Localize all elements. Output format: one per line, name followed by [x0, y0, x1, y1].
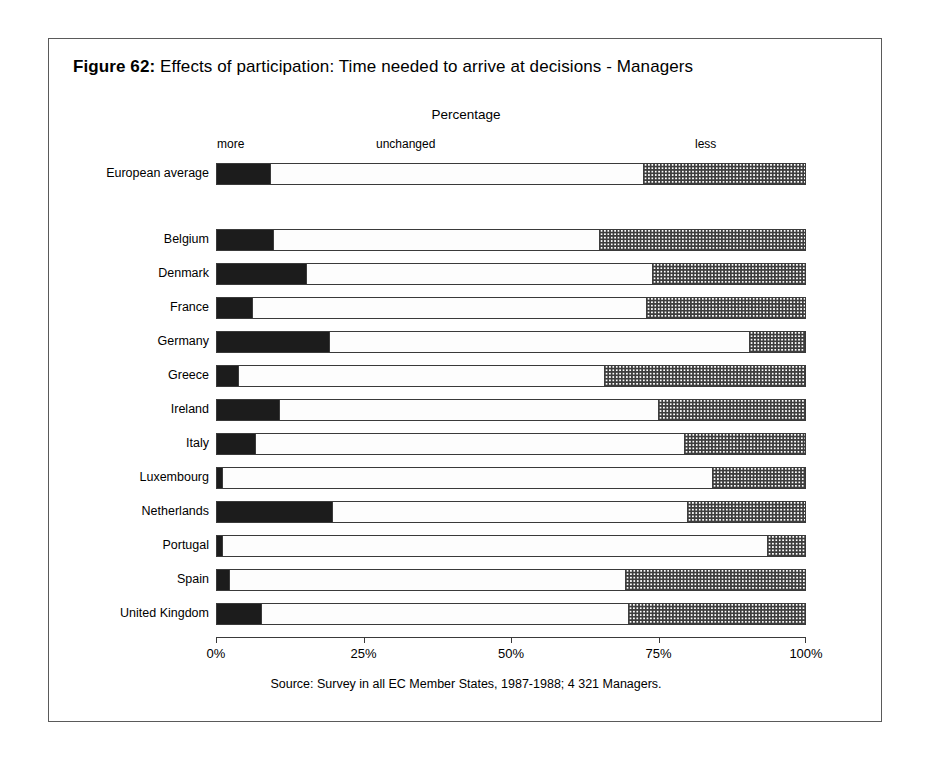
bar-row-label: Greece — [49, 368, 209, 382]
bar-row: Denmark — [49, 263, 883, 285]
bar-segment-less — [684, 434, 805, 454]
bar-segment-more — [217, 434, 255, 454]
chart-plot-area: European averageBelgiumDenmarkFranceGerm… — [49, 39, 883, 723]
bar-segment-unchanged — [229, 570, 627, 590]
bar-segment-more — [217, 264, 306, 284]
x-axis-tick-label: 25% — [350, 646, 376, 661]
stacked-bar — [216, 365, 806, 387]
bar-row-label: Ireland — [49, 402, 209, 416]
bar-row-label: United Kingdom — [49, 606, 209, 620]
bar-row-label: Italy — [49, 436, 209, 450]
x-axis-tick — [511, 637, 512, 643]
bar-row: Belgium — [49, 229, 883, 251]
bar-row: Italy — [49, 433, 883, 455]
bar-segment-more — [217, 332, 329, 352]
bar-segment-unchanged — [329, 332, 751, 352]
bar-segment-less — [646, 298, 805, 318]
bar-row-label: Belgium — [49, 232, 209, 246]
bar-segment-less — [628, 604, 805, 624]
stacked-bar — [216, 535, 806, 557]
bar-row-label: Portugal — [49, 538, 209, 552]
bar-segment-more — [217, 164, 270, 184]
bar-segment-more — [217, 366, 238, 386]
bar-row: Spain — [49, 569, 883, 591]
bar-segment-unchanged — [270, 164, 645, 184]
bar-row: Germany — [49, 331, 883, 353]
x-axis-tick — [364, 637, 365, 643]
x-axis-tick — [805, 637, 806, 643]
bar-segment-unchanged — [261, 604, 630, 624]
bar-segment-unchanged — [238, 366, 607, 386]
bar-row: France — [49, 297, 883, 319]
bar-segment-less — [599, 230, 806, 250]
x-axis-tick — [216, 637, 217, 643]
bar-segment-unchanged — [252, 298, 647, 318]
bar-row-label: European average — [49, 166, 209, 180]
bar-segment-less — [687, 502, 805, 522]
stacked-bar — [216, 331, 806, 353]
bar-row: European average — [49, 163, 883, 185]
bar-row: Ireland — [49, 399, 883, 421]
bar-segment-less — [712, 468, 805, 488]
figure-frame: Figure 62: Effects of participation: Tim… — [48, 38, 882, 722]
bar-row-label: Denmark — [49, 266, 209, 280]
stacked-bar — [216, 399, 806, 421]
bar-segment-less — [749, 332, 805, 352]
stacked-bar — [216, 433, 806, 455]
bar-segment-less — [604, 366, 805, 386]
stacked-bar — [216, 467, 806, 489]
bar-segment-more — [217, 298, 252, 318]
stacked-bar — [216, 229, 806, 251]
bar-segment-more — [217, 604, 261, 624]
bar-row: Portugal — [49, 535, 883, 557]
bar-segment-less — [658, 400, 806, 420]
bar-segment-unchanged — [222, 468, 715, 488]
bar-segment-more — [217, 400, 279, 420]
bar-segment-more — [217, 230, 273, 250]
stacked-bar — [216, 297, 806, 319]
bar-segment-less — [625, 570, 805, 590]
bar-segment-unchanged — [222, 536, 769, 556]
stacked-bar — [216, 263, 806, 285]
stacked-bar — [216, 501, 806, 523]
x-axis-tick-label: 50% — [498, 646, 524, 661]
bar-segment-unchanged — [332, 502, 689, 522]
bar-segment-more — [217, 570, 229, 590]
bar-row: Luxembourg — [49, 467, 883, 489]
bar-segment-less — [767, 536, 805, 556]
bar-segment-unchanged — [255, 434, 686, 454]
x-axis-tick — [659, 637, 660, 643]
bar-row-label: France — [49, 300, 209, 314]
stacked-bar — [216, 603, 806, 625]
bar-row-label: Germany — [49, 334, 209, 348]
stacked-bar — [216, 569, 806, 591]
bar-segment-unchanged — [306, 264, 654, 284]
bar-segment-less — [652, 264, 805, 284]
bar-row: Netherlands — [49, 501, 883, 523]
bar-segment-unchanged — [279, 400, 660, 420]
source-note: Source: Survey in all EC Member States, … — [49, 677, 883, 691]
x-axis-tick-label: 0% — [207, 646, 226, 661]
bar-segment-more — [217, 502, 332, 522]
x-axis-tick-label: 75% — [645, 646, 671, 661]
stacked-bar — [216, 163, 806, 185]
bar-row-label: Spain — [49, 572, 209, 586]
bar-segment-less — [643, 164, 805, 184]
bar-segment-unchanged — [273, 230, 600, 250]
bar-row: Greece — [49, 365, 883, 387]
bar-row-label: Luxembourg — [49, 470, 209, 484]
x-axis-tick-label: 100% — [789, 646, 822, 661]
bar-row: United Kingdom — [49, 603, 883, 625]
x-axis-line: 0%25%50%75%100% — [216, 637, 806, 638]
bar-row-label: Netherlands — [49, 504, 209, 518]
